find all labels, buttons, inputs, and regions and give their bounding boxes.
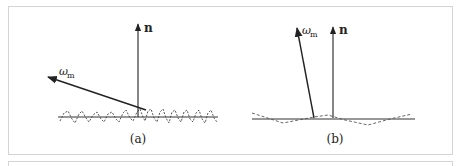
microfacet-subscript: m <box>67 71 75 80</box>
microfacet-subscript: m <box>310 30 318 39</box>
microfacet-normal-arrow <box>297 28 314 118</box>
figure-diagram: n ω m (a) ω m n (b) <box>0 0 462 166</box>
panel-b: ω m n (b) <box>252 23 415 146</box>
normal-label: n <box>339 23 348 37</box>
normal-label: n <box>144 21 153 35</box>
microfacet-normal-arrow <box>48 77 146 110</box>
panel-caption-a: (a) <box>130 132 147 146</box>
panel-caption-b: (b) <box>326 132 343 146</box>
panel-a: n ω m (a) <box>48 21 218 146</box>
